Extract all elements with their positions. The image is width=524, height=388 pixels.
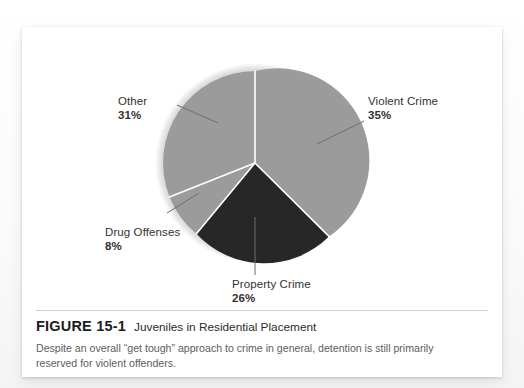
slice-label-percent: 8% [105, 239, 180, 253]
slice-label-percent: 26% [232, 291, 311, 305]
figure-title: Juveniles in Residential Placement [134, 320, 316, 334]
caption-divider [36, 310, 488, 311]
slice-label-name: Property Crime [232, 277, 311, 291]
slice-label-other: Other 31% [118, 94, 147, 122]
caption-title-row: FIGURE 15-1 Juveniles in Residential Pla… [36, 318, 316, 334]
slice-label-percent: 35% [368, 108, 438, 122]
slice-label-violent-crime: Violent Crime 35% [368, 94, 438, 122]
pie-chart-svg [22, 27, 502, 310]
figure-screenshot: Violent Crime 35% Other 31% Drug Offense… [0, 0, 524, 388]
slice-label-property-crime: Property Crime 26% [232, 277, 311, 305]
slice-label-percent: 31% [118, 108, 147, 122]
pie-chart-area: Violent Crime 35% Other 31% Drug Offense… [22, 27, 502, 310]
figure-description: Despite an overall “get tough” approach … [36, 341, 466, 371]
figure-caption: FIGURE 15-1 Juveniles in Residential Pla… [22, 310, 502, 377]
slice-label-name: Other [118, 94, 147, 108]
figure-number: FIGURE 15-1 [36, 318, 126, 334]
slice-label-drug-offenses: Drug Offenses 8% [105, 225, 180, 253]
slice-label-name: Drug Offenses [105, 225, 180, 239]
figure-card: Violent Crime 35% Other 31% Drug Offense… [22, 27, 502, 377]
slice-label-name: Violent Crime [368, 94, 438, 108]
